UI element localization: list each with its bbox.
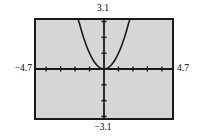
- x-min-label: −4.7: [2, 64, 32, 74]
- plot-frame: [34, 18, 174, 120]
- y-min-label: −3.1: [0, 123, 206, 133]
- y-max-label: 3.1: [0, 4, 206, 14]
- x-max-label: 4.7: [177, 64, 205, 74]
- calculator-screen: 3.1 −4.7 4.7 −3.1: [0, 0, 206, 137]
- plot-canvas: [36, 20, 172, 118]
